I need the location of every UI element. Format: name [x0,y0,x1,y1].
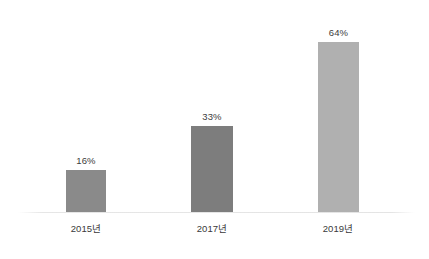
category-label-2017: 2017년 [197,222,228,235]
bar-value-label-0: 16% [76,155,95,167]
bar-group-2: 64% [318,0,359,213]
category-axis-line [18,212,415,213]
bar-value-label-1: 33% [202,111,221,123]
bar-group-1: 33% [191,0,233,213]
bar-value-label-2: 64% [329,27,348,39]
plot-area: 16% 33% 64% [0,0,429,213]
bar-2017[interactable] [191,126,233,213]
category-label-2019: 2019년 [323,222,354,235]
bar-chart: 16% 33% 64% 2015년 2017년 2019년 [0,0,429,259]
category-label-2015: 2015년 [71,222,102,235]
bar-group-0: 16% [66,0,106,213]
bar-2019[interactable] [318,42,359,213]
bar-2015[interactable] [66,170,106,213]
